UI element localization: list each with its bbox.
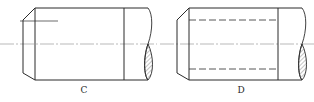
- section-hatch-c: [145, 44, 153, 80]
- view-d: D: [160, 8, 314, 95]
- label-c: C: [81, 85, 88, 95]
- view-c: C: [0, 8, 157, 95]
- drawing-canvas: C D: [0, 0, 314, 102]
- section-hatch-d: [299, 44, 307, 80]
- label-d: D: [237, 85, 244, 95]
